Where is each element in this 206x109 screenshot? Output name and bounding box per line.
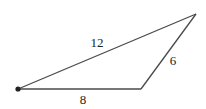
triangle-diagram: 12 6 8 (0, 0, 206, 109)
vertex-a-dot (15, 86, 20, 91)
side-ab-label: 8 (80, 92, 87, 107)
side-bc-label: 6 (170, 53, 177, 68)
side-ac-label: 12 (91, 35, 104, 50)
